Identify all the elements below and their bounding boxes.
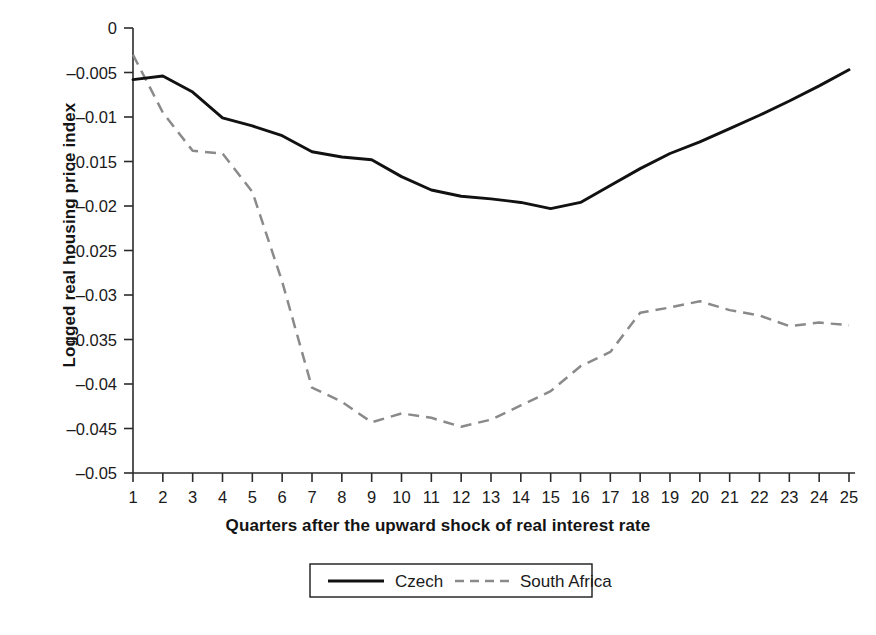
y-axis-title: Logged real housing price index bbox=[60, 15, 80, 455]
y-axis-tick-label: –0.01 bbox=[76, 108, 117, 126]
legend-label-south-africa: South Africa bbox=[520, 572, 612, 591]
x-axis-tick-label: 17 bbox=[601, 488, 619, 506]
y-axis-tick-label: 0 bbox=[108, 19, 117, 37]
x-axis-tick-label: 13 bbox=[482, 488, 500, 506]
x-axis-tick-label: 12 bbox=[452, 488, 470, 506]
x-axis-tick-label: 23 bbox=[780, 488, 798, 506]
x-axis-tick-label: 22 bbox=[750, 488, 768, 506]
x-axis-tick-label: 19 bbox=[661, 488, 679, 506]
x-axis-tick-label: 10 bbox=[392, 488, 410, 506]
x-axis-tick-label: 11 bbox=[423, 488, 440, 506]
x-axis-tick-label: 15 bbox=[541, 488, 559, 506]
x-axis-tick-label: 8 bbox=[337, 488, 346, 506]
x-axis-tick-label: 25 bbox=[840, 488, 858, 506]
x-axis-tick-label: 7 bbox=[307, 488, 316, 506]
series-line-czech bbox=[133, 70, 849, 209]
legend-label-czech: Czech bbox=[395, 572, 443, 591]
x-axis-tick-label: 16 bbox=[571, 488, 589, 506]
x-axis-tick-label: 9 bbox=[367, 488, 376, 506]
x-axis-tick-label: 4 bbox=[218, 488, 227, 506]
plot-area: 0–0.005–0.01–0.015–0.02–0.025–0.03–0.035… bbox=[0, 0, 876, 635]
x-axis-tick-label: 1 bbox=[128, 488, 137, 506]
y-axis-tick-label: –0.02 bbox=[76, 197, 117, 215]
x-axis-tick-label: 6 bbox=[278, 488, 287, 506]
y-axis-tick-label: –0.05 bbox=[76, 464, 117, 482]
x-axis-tick-label: 14 bbox=[512, 488, 530, 506]
x-axis-tick-label: 5 bbox=[248, 488, 257, 506]
y-axis-tick-label: –0.04 bbox=[76, 375, 117, 393]
x-axis-tick-label: 21 bbox=[720, 488, 738, 506]
x-axis-tick-label: 18 bbox=[631, 488, 649, 506]
x-axis-tick-group: 1234567891011121314151617181920212223242… bbox=[128, 473, 858, 506]
x-axis-tick-label: 2 bbox=[158, 488, 167, 506]
series-line-south-africa bbox=[133, 55, 849, 427]
x-axis-tick-label: 3 bbox=[188, 488, 197, 506]
x-axis-tick-label: 24 bbox=[810, 488, 828, 506]
x-axis-tick-label: 20 bbox=[691, 488, 709, 506]
y-axis-tick-label: –0.03 bbox=[76, 286, 117, 304]
chart-figure: Logged real housing price index Quarters… bbox=[0, 0, 876, 635]
x-axis-title: Quarters after the upward shock of real … bbox=[0, 516, 876, 536]
chart-legend: Czech South Africa bbox=[310, 564, 612, 597]
